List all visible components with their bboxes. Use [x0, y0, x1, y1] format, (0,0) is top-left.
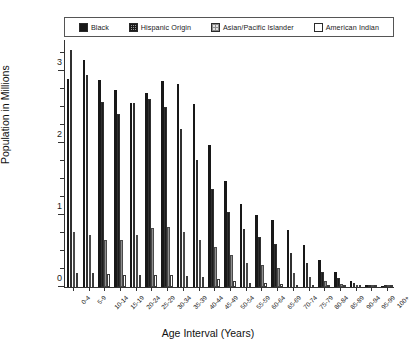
bar — [139, 275, 142, 287]
bar-group — [130, 103, 142, 287]
bar-group — [240, 204, 252, 287]
x-axis-tick-label: 80-84 — [333, 294, 350, 311]
x-axis-tick-label: 55-59 — [254, 294, 271, 311]
x-axis-tick-label: 0-4 — [80, 294, 91, 305]
bar — [374, 285, 377, 287]
bar-group — [114, 90, 126, 287]
x-axis-tick — [183, 287, 184, 291]
x-axis-tick — [89, 287, 90, 291]
x-axis-tick — [199, 287, 200, 291]
x-axis-tick — [246, 287, 247, 291]
legend-swatch-icon — [314, 23, 323, 32]
x-axis-tick-label: 65-69 — [286, 294, 303, 311]
bar — [249, 283, 252, 287]
x-axis-tick-label: 45-49 — [223, 294, 240, 311]
bar — [264, 283, 267, 287]
bar — [107, 274, 110, 287]
bar — [312, 285, 315, 287]
y-axis-tick-label: 0 — [57, 274, 62, 283]
x-axis-tick — [104, 287, 105, 291]
x-axis-tick — [371, 287, 372, 291]
bar-group — [255, 215, 267, 287]
bar — [359, 285, 362, 287]
legend-label: Hispanic Origin — [141, 23, 191, 32]
x-axis-tick — [167, 287, 168, 291]
y-axis-tick-label: 3 — [57, 58, 62, 67]
legend-swatch-icon — [129, 23, 138, 32]
legend-label: American Indian — [326, 23, 379, 32]
bar-group — [208, 145, 220, 287]
legend-entry: American Indian — [314, 23, 379, 32]
x-axis-tick-label: 40-44 — [207, 294, 224, 311]
bar — [280, 284, 283, 287]
bar — [92, 273, 95, 287]
x-axis-tick-label: 100+ — [395, 294, 410, 309]
y-axis-tick-label: 1 — [57, 202, 62, 211]
y-axis-minor-tick — [60, 268, 65, 269]
bar — [123, 275, 126, 287]
y-axis-minor-tick — [60, 178, 65, 179]
x-axis-tick — [120, 287, 121, 291]
bar — [327, 285, 330, 287]
bar — [217, 279, 220, 287]
bar-group — [193, 104, 205, 287]
bar — [170, 275, 173, 287]
plot-frame: 0123 0-45-910-1415-1920-2425-2930-3435-3… — [64, 40, 394, 288]
legend-label: Black — [91, 23, 109, 32]
bar-group — [224, 181, 236, 287]
y-axis-title: Population in Millions — [0, 65, 11, 164]
x-axis-tick — [73, 287, 74, 291]
x-axis-tick-label: 35-39 — [192, 294, 209, 311]
bar — [76, 273, 79, 287]
legend-swatch-icon — [211, 23, 220, 32]
bar — [390, 285, 393, 287]
x-axis-tick-label: 90-94 — [364, 294, 381, 311]
bar — [343, 285, 346, 287]
bar — [296, 285, 299, 287]
x-axis-tick-label: 60-64 — [270, 294, 287, 311]
bar — [186, 276, 189, 288]
y-axis-tick — [58, 70, 65, 71]
chart-figure: BlackHispanic OriginAsian/Pacific Island… — [0, 0, 416, 349]
y-axis-tick — [58, 214, 65, 215]
x-axis-tick — [387, 287, 388, 291]
legend-label: Asian/Pacific Islander — [223, 23, 294, 32]
x-axis-tick-label: 50-54 — [239, 294, 256, 311]
bar-group — [98, 80, 110, 287]
x-axis-tick-label: 95-99 — [380, 294, 397, 311]
x-axis-tick-label: 5-9 — [95, 294, 106, 305]
legend-entry: Asian/Pacific Islander — [211, 23, 294, 32]
x-axis-tick-label: 15-19 — [129, 294, 146, 311]
x-axis-tick-label: 10-14 — [113, 294, 130, 311]
x-axis-title: Age Interval (Years) — [0, 327, 416, 339]
y-axis-minor-tick — [60, 124, 65, 125]
bar-group — [271, 220, 283, 287]
y-axis-minor-tick — [60, 106, 65, 107]
plot-area: 0123 — [65, 40, 394, 287]
x-axis-tick — [151, 287, 152, 291]
y-axis-tick — [58, 286, 65, 287]
y-axis-tick-label: 2 — [57, 130, 62, 139]
x-axis-tick — [340, 287, 341, 291]
chart-legend: BlackHispanic OriginAsian/Pacific Island… — [64, 17, 394, 37]
bar — [202, 277, 205, 287]
x-axis-tick — [324, 287, 325, 291]
bar-group — [145, 93, 157, 287]
x-axis-tick — [309, 287, 310, 291]
bar-group — [334, 272, 346, 287]
x-axis-tick-label: 20-24 — [144, 294, 161, 311]
x-axis-tick — [277, 287, 278, 291]
legend-swatch-icon — [79, 23, 88, 32]
bar — [233, 281, 236, 287]
x-axis-tick-label: 25-29 — [160, 294, 177, 311]
y-axis-minor-tick — [60, 88, 65, 89]
x-axis-tick — [230, 287, 231, 291]
x-axis-tick — [214, 287, 215, 291]
legend-entry: Hispanic Origin — [129, 23, 191, 32]
x-axis-tick-label: 70-74 — [302, 294, 319, 311]
bar-group — [161, 81, 173, 287]
y-axis-minor-tick — [60, 196, 65, 197]
x-axis-tick-label: 30-34 — [176, 294, 193, 311]
y-axis-minor-tick — [60, 160, 65, 161]
x-axis-tick-label: 85-89 — [349, 294, 366, 311]
